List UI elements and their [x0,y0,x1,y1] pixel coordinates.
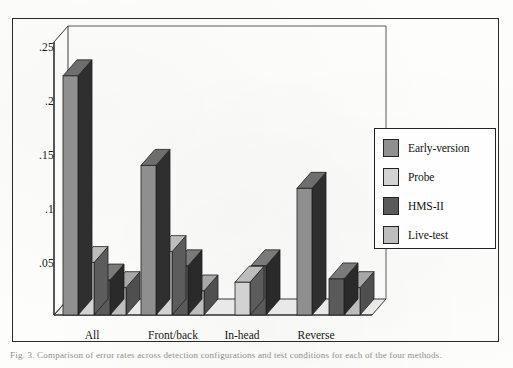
legend-label-hms-ii: HMS-II [408,200,444,212]
legend-label-live-test: Live-test [408,229,448,241]
legend-label-probe: Probe [408,171,434,183]
x-tick-label-reverse: Reverse [283,329,349,341]
legend-swatch-early-version [383,139,399,157]
x-tick-label-all: All [62,329,122,341]
figure-caption: Fig. 3. Comparison of error rates across… [10,350,505,360]
legend: Early-version Probe HMS-II Live-test [374,128,496,249]
legend-item-early-version: Early-version [383,137,469,159]
legend-label-early-version: Early-version [408,142,469,154]
legend-item-hms-ii: HMS-II [383,195,444,217]
legend-item-live-test: Live-test [383,224,448,246]
legend-item-probe: Probe [383,166,434,188]
legend-swatch-probe [383,168,399,186]
x-tick-label-frontback: Front/back [137,329,209,341]
x-tick-label-inhead: In-head [209,329,275,341]
legend-swatch-hms-ii [383,197,399,215]
legend-swatch-live-test [383,226,399,244]
figure-root: .25 .2 .15 .1 .05 All Front/back In-head… [0,0,513,368]
